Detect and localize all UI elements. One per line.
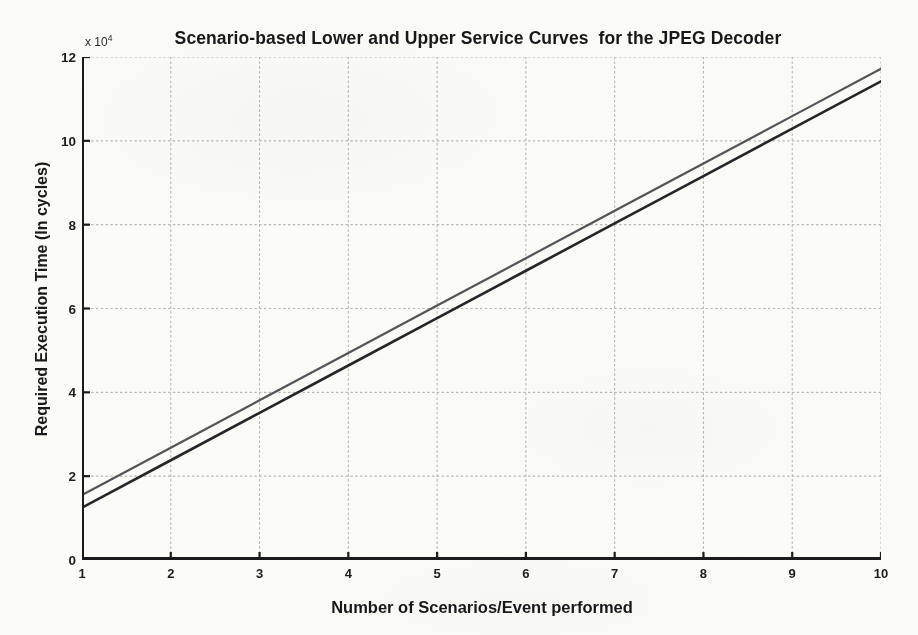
plot-svg (82, 57, 881, 560)
y-tick-label: 8 (40, 217, 76, 232)
x-tick-label: 8 (688, 566, 718, 581)
y-tick-label: 10 (40, 133, 76, 148)
y-tick-label: 4 (40, 385, 76, 400)
chart-figure: Scenario-based Lower and Upper Service C… (0, 0, 918, 635)
y-axis-tick-labels: 024681012 (36, 57, 76, 560)
x-tick-label: 4 (333, 566, 363, 581)
y-tick-label: 12 (40, 50, 76, 65)
x-tick-label: 3 (245, 566, 275, 581)
y-axis-multiplier-base: x 10 (85, 35, 108, 49)
x-tick-label: 9 (777, 566, 807, 581)
x-tick-label: 10 (866, 566, 896, 581)
x-axis-label: Number of Scenarios/Event performed (82, 598, 882, 617)
y-tick-label: 2 (40, 469, 76, 484)
x-tick-label: 6 (511, 566, 541, 581)
series-line-2 (82, 81, 881, 507)
y-axis-multiplier-exponent: 4 (108, 33, 113, 43)
x-tick-label: 1 (67, 566, 97, 581)
x-axis-tick-labels: 12345678910 (82, 566, 882, 590)
x-tick-label: 7 (600, 566, 630, 581)
series-line-1 (82, 69, 881, 495)
chart-title: Scenario-based Lower and Upper Service C… (0, 28, 918, 49)
x-tick-label: 5 (422, 566, 452, 581)
y-tick-label: 6 (40, 301, 76, 316)
x-tick-label: 2 (156, 566, 186, 581)
y-axis-multiplier: x 104 (85, 33, 112, 49)
plot-area (82, 57, 881, 560)
